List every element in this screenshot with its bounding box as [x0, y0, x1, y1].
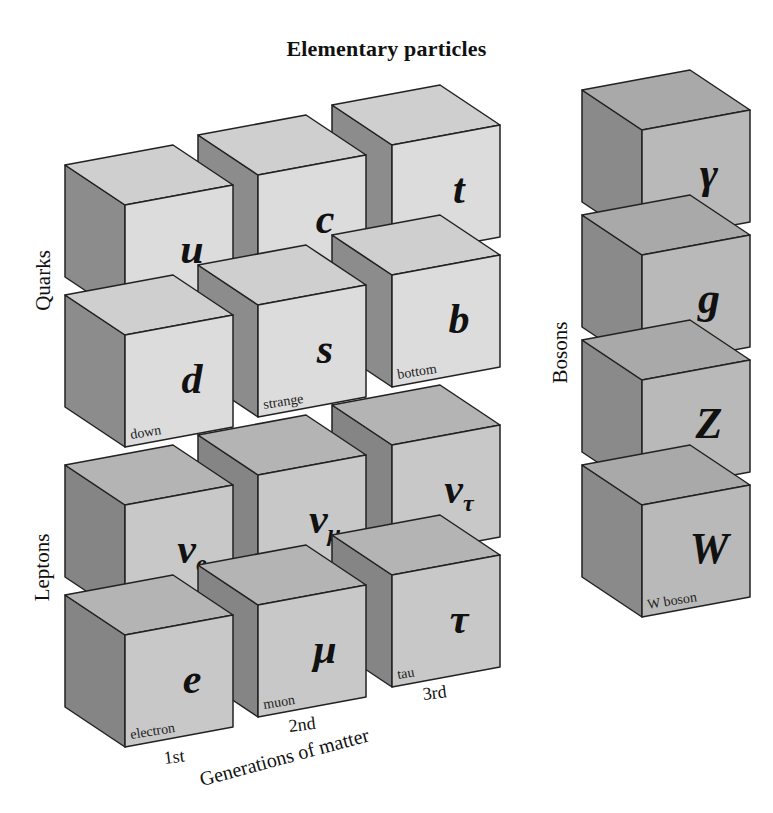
group-label-quarks: Quarks — [31, 246, 56, 316]
particle-cube-down: ddown — [65, 275, 233, 447]
particle-cube-electron: eelectron — [65, 575, 233, 747]
generation-label-2nd: 2nd — [287, 713, 316, 737]
group-label-bosons: Bosons — [548, 318, 573, 388]
particle-symbol: Z — [695, 399, 723, 448]
particle-symbol: τ — [450, 596, 470, 642]
elementary-particles-diagram: Elementary particles ttopccharmuupbbotto… — [0, 0, 773, 813]
particle-cube-W-boson: WW boson — [582, 445, 750, 617]
particle-name: tau — [396, 664, 415, 681]
generation-label-3rd: 3rd — [421, 681, 447, 705]
particle-symbol: W — [689, 524, 731, 573]
generation-label-1st: 1st — [162, 746, 185, 769]
particle-symbol: t — [453, 166, 466, 212]
particle-symbol: γ — [700, 149, 719, 198]
particle-symbol: d — [181, 356, 203, 402]
particle-symbol: b — [448, 296, 469, 342]
particle-symbol: g — [697, 274, 720, 323]
particle-cubes: ttopccharmuupbbottomsstrangeddownντtaune… — [0, 0, 773, 813]
particle-symbol: μ — [311, 626, 336, 672]
group-label-leptons: Leptons — [30, 528, 55, 608]
particle-symbol: s — [316, 326, 333, 372]
particle-symbol: e — [183, 656, 202, 702]
